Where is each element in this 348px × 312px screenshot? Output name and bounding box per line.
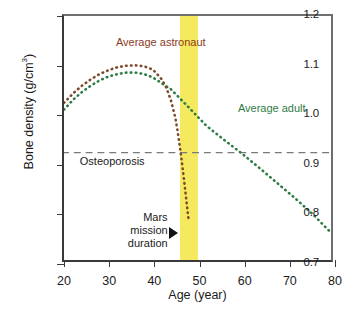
y-tick-0.8 <box>57 214 64 215</box>
x-tick-label-70: 70 <box>270 274 310 288</box>
y-tick-0.7 <box>57 264 64 265</box>
osteoporosis-label: Osteoporosis <box>80 155 145 168</box>
y-tick-label-0.7: 0.7 <box>275 256 319 268</box>
mars-mission-annotation: Mars mission duration <box>112 211 168 251</box>
y-axis-title: Bone density (g/cm3) <box>20 32 35 192</box>
y-tick-1.2 <box>57 16 64 17</box>
plot-inner: Average astronaut Average adult Osteopor… <box>64 16 331 260</box>
x-tick-label-60: 60 <box>225 274 265 288</box>
x-tick-label-50: 50 <box>180 274 220 288</box>
x-tick-80 <box>335 260 336 267</box>
plot-area: Average astronaut Average adult Osteopor… <box>62 14 333 262</box>
x-tick-label-20: 20 <box>44 274 84 288</box>
y-tick-label-1.0: 1.0 <box>275 107 319 119</box>
x-tick-50 <box>200 260 201 267</box>
y-tick-label-1.2: 1.2 <box>275 8 319 20</box>
x-tick-60 <box>245 260 246 267</box>
y-axis-title-close: ) <box>22 54 36 58</box>
mars-annotation-line-1: Mars <box>112 211 168 224</box>
series-label-astronaut: Average astronaut <box>116 36 206 49</box>
y-axis-title-main: Bone density (g/cm <box>22 62 36 169</box>
x-axis-title: Age (year) <box>62 288 333 302</box>
x-tick-70 <box>290 260 291 267</box>
y-tick-0.9 <box>57 165 64 166</box>
y-tick-label-0.9: 0.9 <box>275 157 319 169</box>
data-curves-layer <box>64 16 331 260</box>
mars-pointer-triangle-icon <box>169 227 178 239</box>
y-tick-label-1.1: 1.1 <box>275 58 319 70</box>
x-tick-label-80: 80 <box>315 274 348 288</box>
y-tick-label-0.8: 0.8 <box>275 206 319 218</box>
mars-annotation-line-2: mission <box>112 224 168 237</box>
y-tick-1.1 <box>57 66 64 67</box>
y-tick-1.0 <box>57 115 64 116</box>
bone-density-chart: Bone density (g/cm3) Age (year) Average … <box>0 0 348 312</box>
x-tick-label-40: 40 <box>134 274 174 288</box>
y-axis-title-superscript: 3 <box>20 58 29 62</box>
x-tick-20 <box>64 260 65 267</box>
x-tick-40 <box>154 260 155 267</box>
x-tick-label-30: 30 <box>89 274 129 288</box>
mars-annotation-line-3: duration <box>112 237 168 250</box>
x-tick-30 <box>109 260 110 267</box>
